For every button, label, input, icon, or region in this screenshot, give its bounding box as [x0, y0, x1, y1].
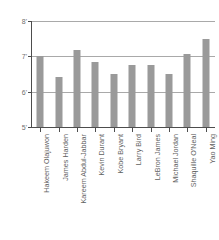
x-axis-label: Yao Ming — [209, 134, 216, 164]
y-axis-tick-mark — [28, 127, 32, 128]
y-axis-tick-labels: 5'6'7'8' — [0, 0, 27, 240]
x-axis-label: LeBron James — [154, 134, 161, 180]
bar-slot — [31, 21, 49, 127]
bar — [129, 65, 136, 127]
x-axis-label: Kareem Abdul-Jabbar — [80, 134, 87, 204]
bar — [37, 56, 44, 127]
bar-slot — [105, 21, 123, 127]
bar-slot — [49, 21, 67, 127]
bar-slot — [68, 21, 86, 127]
bar-slot — [197, 21, 215, 127]
bar — [92, 62, 99, 127]
bar-slot — [123, 21, 141, 127]
x-axis-tick-mark — [169, 128, 170, 132]
bar-chart: 5'6'7'8' Hakeem OlajuwonJames HardenKare… — [0, 0, 219, 240]
x-axis-label: Michael Jordan — [172, 134, 179, 183]
y-axis-line — [31, 21, 32, 128]
y-axis-tick-label: 8' — [22, 18, 27, 25]
bar — [202, 39, 209, 127]
y-axis-tick-mark — [28, 92, 32, 93]
bar — [147, 65, 154, 127]
x-axis-tick-mark — [59, 128, 60, 132]
bar — [73, 50, 80, 127]
x-axis-label: Kevin Durant — [98, 134, 105, 176]
y-axis-tick-label: 5' — [22, 124, 27, 131]
y-axis-tick-label: 6' — [22, 88, 27, 95]
bar — [110, 74, 117, 127]
x-axis-tick-mark — [206, 128, 207, 132]
x-axis-label: Shaquille O'Neal — [190, 134, 197, 187]
x-axis-tick-mark — [132, 128, 133, 132]
bar — [184, 54, 191, 127]
x-axis-label: Larry Bird — [135, 134, 142, 165]
bar-slot — [160, 21, 178, 127]
x-axis-label: Kobe Bryant — [117, 134, 124, 174]
bar-slot — [178, 21, 196, 127]
bar-slot — [86, 21, 104, 127]
x-axis-tick-mark — [114, 128, 115, 132]
x-axis-tick-mark — [151, 128, 152, 132]
bar — [55, 77, 62, 127]
y-axis-tick-mark — [28, 56, 32, 57]
y-axis-tick-label: 7' — [22, 53, 27, 60]
bar-slot — [141, 21, 159, 127]
x-axis-tick-mark — [40, 128, 41, 132]
plot-area — [31, 21, 215, 127]
x-axis-label: Hakeem Olajuwon — [43, 134, 50, 193]
y-axis-tick-mark — [28, 21, 32, 22]
x-axis-tick-mark — [95, 128, 96, 132]
x-axis-tick-mark — [77, 128, 78, 132]
bar — [165, 74, 172, 127]
x-axis-label: James Harden — [62, 134, 69, 181]
x-axis-tick-mark — [187, 128, 188, 132]
